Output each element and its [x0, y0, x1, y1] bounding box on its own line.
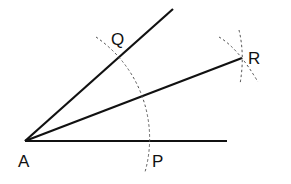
- arc-r-2: [239, 30, 242, 84]
- label-r: R: [248, 49, 260, 68]
- bisector-ar: [25, 58, 242, 141]
- angle-bisector-diagram: A P Q R: [0, 0, 291, 184]
- label-q: Q: [111, 30, 124, 49]
- ray-aq: [25, 9, 173, 141]
- label-a: A: [18, 152, 30, 171]
- label-p: P: [152, 152, 163, 171]
